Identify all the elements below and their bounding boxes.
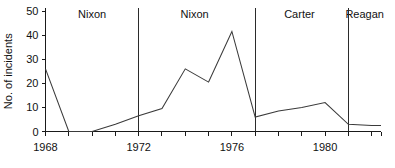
y-tick-label: 50 bbox=[26, 5, 38, 17]
x-tick-label: 1972 bbox=[126, 141, 150, 153]
x-axis-label-group: 1968197219761980 bbox=[33, 141, 337, 153]
x-tick-label: 1976 bbox=[220, 141, 244, 153]
x-axis-tick-group bbox=[46, 132, 382, 136]
term-label: Nixon bbox=[78, 8, 106, 20]
term-label: Nixon bbox=[181, 8, 209, 20]
y-tick-label: 40 bbox=[26, 29, 38, 41]
y-tick-label: 20 bbox=[26, 77, 38, 89]
incidents-data-line bbox=[46, 31, 382, 131]
y-tick-label: 30 bbox=[26, 53, 38, 65]
chart-figure: NixonNixonCarterReagan 01020304050 19681… bbox=[0, 0, 395, 168]
y-axis-tick-group: 01020304050 bbox=[26, 5, 45, 138]
y-axis-title: No. of incidents bbox=[2, 33, 14, 109]
term-divider-group bbox=[139, 8, 349, 132]
x-tick-label: 1980 bbox=[313, 141, 337, 153]
y-tick-label: 0 bbox=[32, 126, 38, 138]
term-label-group: NixonNixonCarterReagan bbox=[78, 8, 384, 20]
x-tick-label: 1968 bbox=[33, 141, 57, 153]
term-label: Carter bbox=[284, 8, 315, 20]
term-label: Reagan bbox=[345, 8, 384, 20]
incidents-line-chart: NixonNixonCarterReagan 01020304050 19681… bbox=[0, 0, 395, 168]
y-tick-label: 10 bbox=[26, 101, 38, 113]
